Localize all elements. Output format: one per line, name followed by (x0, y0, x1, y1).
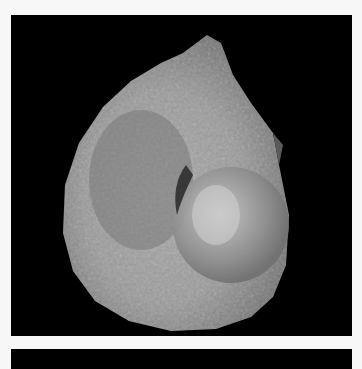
second-photo-panel (11, 349, 352, 369)
photo-panel (11, 15, 352, 336)
ammonite-fossil (11, 15, 352, 336)
